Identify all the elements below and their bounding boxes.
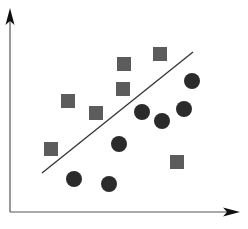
- square-marker: [116, 82, 130, 96]
- square-marker: [117, 57, 131, 71]
- square-marker: [153, 47, 167, 61]
- square-marker: [44, 142, 58, 156]
- circle-marker: [101, 176, 117, 192]
- series-squares: [44, 47, 184, 169]
- circle-marker: [184, 73, 200, 89]
- data-series: [44, 47, 200, 192]
- square-marker: [61, 94, 75, 108]
- circle-marker: [176, 101, 192, 117]
- circle-marker: [134, 104, 150, 120]
- circle-marker: [111, 136, 127, 152]
- square-marker: [170, 155, 184, 169]
- square-marker: [89, 106, 103, 120]
- scatter-chart: [0, 0, 248, 229]
- circle-marker: [66, 171, 82, 187]
- circle-marker: [154, 113, 170, 129]
- series-circles: [66, 73, 200, 192]
- axes: [6, 8, 241, 217]
